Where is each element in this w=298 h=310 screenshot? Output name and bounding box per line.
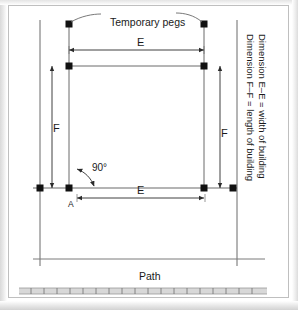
- label-dimension-f-left: F: [53, 123, 60, 134]
- label-dimension-e-bottom: E: [137, 185, 144, 196]
- page-edge-left: [0, 0, 7, 310]
- leader-line-left: [71, 14, 101, 22]
- label-right-angle: 90°: [92, 163, 107, 173]
- label-temporary-pegs: Temporary pegs: [110, 17, 185, 28]
- caption-dimension-key: Dimension E–E = width of building Dimens…: [244, 34, 268, 234]
- peg-bottom-outer-left: [37, 185, 44, 192]
- path-band-fill: [19, 288, 267, 294]
- label-path: Path: [139, 271, 161, 282]
- peg-inner-top-right: [201, 63, 208, 70]
- peg-inner-top-left: [66, 63, 73, 70]
- label-point-a: A: [68, 200, 74, 209]
- page-edge-bottom: [0, 301, 298, 310]
- caption-line-2: Dimension F–F = length of building: [244, 34, 256, 234]
- label-dimension-f-right: F: [221, 128, 228, 139]
- path-band: [19, 288, 267, 294]
- page-edge-right: [292, 0, 298, 310]
- caption-line-1: Dimension E–E = width of building: [256, 34, 268, 234]
- diagram-frame: Temporary pegs E F F 90° E A Path Dimens…: [8, 5, 289, 298]
- label-dimension-e-top: E: [137, 37, 144, 48]
- peg-bottom-outer-right: [230, 185, 237, 192]
- peg-bottom-right: [201, 185, 208, 192]
- peg-bottom-left: [66, 185, 73, 192]
- figure-page: Temporary pegs E F F 90° E A Path Dimens…: [0, 0, 298, 310]
